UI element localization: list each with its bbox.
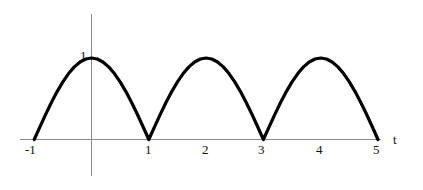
x-tick-label-2: 2 (202, 143, 209, 156)
plot-canvas (0, 0, 423, 190)
x-tick-label-5: 5 (373, 143, 380, 156)
data-curve (34, 58, 378, 140)
x-tick-label-3: 3 (258, 143, 265, 156)
x-tick-label-1: 1 (145, 143, 152, 156)
x-axis-name-label: t (393, 133, 397, 146)
x-tick-label-minus-1: -1 (25, 143, 36, 156)
x-tick-label-4: 4 (316, 143, 323, 156)
plot-figure: 1 -1 1 2 3 4 5 t (0, 0, 423, 190)
y-tick-label-1: 1 (80, 49, 87, 62)
